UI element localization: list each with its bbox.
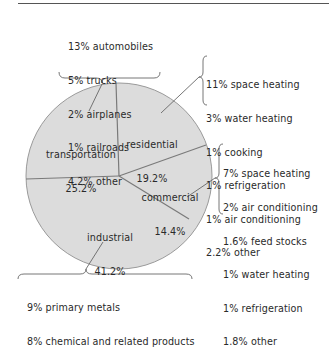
breakdown-item: 5% trucks: [68, 75, 153, 86]
breakdown-item: 8% chemical and related products: [27, 336, 195, 347]
industrial-breakdown: 9% primary metals 8% chemical and relate…: [27, 280, 195, 358]
breakdown-item: 3% water heating: [206, 113, 301, 124]
breakdown-item: 7% space heating: [223, 168, 318, 179]
breakdown-item: 11% space heating: [206, 79, 301, 90]
slice-name: residential: [120, 139, 184, 150]
slice-name: commercial: [135, 192, 205, 203]
slice-label-commercial: commercial 14.4%: [135, 170, 205, 248]
breakdown-item: 9% primary metals: [27, 302, 195, 313]
slice-name: industrial: [79, 232, 141, 243]
breakdown-item: 1% water heating: [223, 269, 318, 280]
breakdown-item: 13% automobiles: [68, 41, 153, 52]
breakdown-item: 1.6% feed stocks: [223, 236, 318, 247]
breakdown-item: 1.8% other: [223, 336, 318, 347]
slice-percent: 25.2%: [42, 183, 120, 194]
breakdown-item: 1% refrigeration: [223, 303, 318, 314]
slice-label-industrial: industrial 41.2%: [79, 210, 141, 288]
slice-label-transportation: transportation 25.2%: [42, 127, 120, 205]
slice-name: transportation: [42, 149, 120, 160]
slice-percent: 41.2%: [79, 266, 141, 277]
commercial-breakdown: 7% space heating 2% air conditioning 1.6…: [223, 146, 318, 358]
slice-percent: 14.4%: [135, 226, 205, 237]
breakdown-item: 2% air conditioning: [223, 202, 318, 213]
